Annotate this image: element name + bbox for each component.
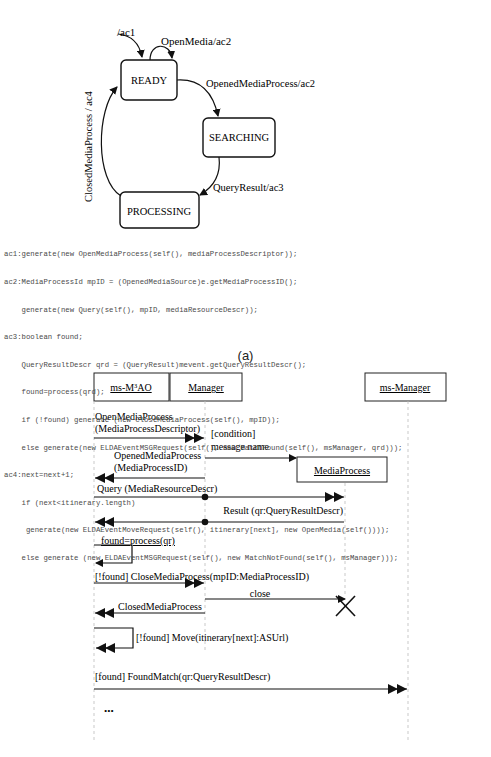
self-loop-arrow [150,46,172,60]
transition-processing-ready [101,87,121,196]
code-line: generate(new Query(self(), mpID, mediaRe… [4,306,491,315]
code-line: ac2:MediaProcessId mpID = (OpenedMediaSo… [4,278,491,287]
msg-close-media-process-label: [!found] CloseMediaProcess(mpID:MediaPro… [95,571,309,583]
destroy-x-icon [336,596,355,616]
msg-found-match-label: [found] FoundMatch(qr:QueryResultDescr) [95,671,270,683]
transition-ready-searching-label: OpenedMediaProcess/ac2 [206,78,315,89]
initial-label: /ac1 [117,26,135,38]
code-line: if (next<itinerary.length) [4,499,491,508]
continuation-ellipsis: ... [104,700,114,715]
state-ready-label: READY [131,75,168,86]
code-line: found=process(qrd); [4,388,491,397]
msg-close-label: close [250,588,271,599]
state-searching-label: SEARCHING [209,132,270,143]
figure-caption: (a) [0,348,491,363]
msg-move-arrow [94,628,133,648]
self-loop-label: OpenMedia/ac2 [161,35,231,47]
msg-move-label: [!found] Move(itinerary[next]:ASUrl) [136,632,288,644]
code-line: ac1:generate(new OpenMediaProcess(self()… [4,250,491,259]
state-processing-label: PROCESSING [127,206,192,217]
code-line: generate(new ELDAEventMoveRequest(self()… [4,526,491,535]
code-line: ac4:next=next+1; [4,471,491,480]
code-line: if (!found) generate (new CloseMediaProc… [4,416,491,425]
action-code-block: ac1:generate(new OpenMediaProcess(self()… [4,232,491,572]
state-diagram: /ac1 OpenMedia/ac2 READY OpenedMediaProc… [83,26,315,228]
transition-searching-processing-label: QueryResult/ac3 [213,182,284,193]
code-line: else generate (new ELDAEventMSGRequest(s… [4,554,491,563]
transition-processing-ready-label: ClosedMediaProcess / ac4 [83,90,94,202]
msg-closed-media-process-label: ClosedMediaProcess [118,601,202,612]
code-line: ac3:boolean found; [4,333,491,342]
code-line: else generate(new ELDAEventMSGRequest(se… [4,444,491,453]
